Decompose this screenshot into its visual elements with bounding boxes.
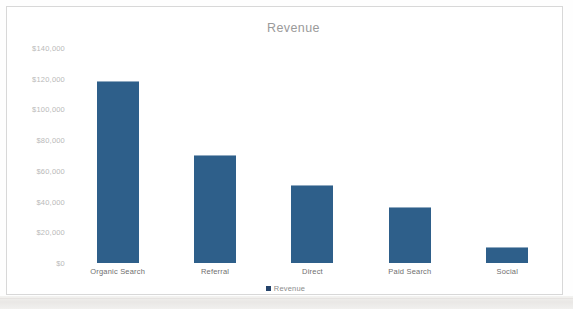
y-axis-tick-label: $60,000 xyxy=(36,166,65,175)
x-axis-category-label: Direct xyxy=(302,267,323,276)
chart-legend: Revenue xyxy=(7,284,564,293)
y-axis-tick-label: $0 xyxy=(56,259,65,268)
bar[interactable] xyxy=(389,207,431,263)
bar-group: Social xyxy=(459,48,556,263)
legend-marker-icon xyxy=(266,286,271,291)
bar[interactable] xyxy=(291,185,333,263)
plot-area: Organic SearchReferralDirectPaid SearchS… xyxy=(69,48,556,263)
chart-title: Revenue xyxy=(15,21,572,35)
x-axis-category-label: Organic Search xyxy=(90,267,145,276)
bar-group: Organic Search xyxy=(69,48,166,263)
bar[interactable] xyxy=(194,155,236,264)
bar-group: Direct xyxy=(264,48,361,263)
legend-label: Revenue xyxy=(274,284,305,293)
x-axis-category-label: Social xyxy=(496,267,518,276)
bar-group: Paid Search xyxy=(361,48,458,263)
y-axis-tick-label: $20,000 xyxy=(36,228,65,237)
y-axis-tick-label: $80,000 xyxy=(36,136,65,145)
scan-artifact-band xyxy=(0,296,573,309)
y-axis-tick-label: $120,000 xyxy=(32,74,65,83)
bar[interactable] xyxy=(486,247,528,263)
y-axis-tick-label: $140,000 xyxy=(32,44,65,53)
x-axis-category-label: Paid Search xyxy=(388,267,431,276)
bar[interactable] xyxy=(97,81,139,263)
y-axis-tick-label: $40,000 xyxy=(36,197,65,206)
x-axis-category-label: Referral xyxy=(201,267,229,276)
chart-screenshot: Revenue $140,000$120,000$100,000$80,000$… xyxy=(0,0,573,309)
y-axis-tick-label: $100,000 xyxy=(32,105,65,114)
chart-frame: Revenue $140,000$120,000$100,000$80,000$… xyxy=(6,6,563,295)
y-axis: $140,000$120,000$100,000$80,000$60,000$4… xyxy=(13,48,65,263)
bar-group: Referral xyxy=(166,48,263,263)
